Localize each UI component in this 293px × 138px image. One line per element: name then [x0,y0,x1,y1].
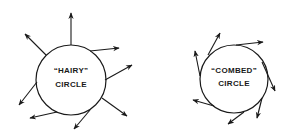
hairy-label-line1: “HAIRY” [54,66,89,75]
arrow-icon [102,98,127,116]
arrow-icon [228,112,244,124]
arrow-icon [30,112,57,118]
arrow-icon [90,48,119,51]
combed-circle-figure: “COMBED” CIRCLE [193,33,275,124]
arrow-icon [19,82,37,105]
arrow-icon [193,100,214,106]
arrow-icon [262,62,275,91]
arrow-icon [195,51,200,76]
arrow-icon [105,65,132,80]
hairy-circle-figure: “HAIRY” CIRCLE [19,13,132,129]
hairy-combed-diagram: “HAIRY” CIRCLE “COMBED” CIRCLE [0,0,293,138]
arrow-icon [25,34,46,55]
arrow-icon [236,42,263,45]
combed-label-line1: “COMBED” [211,66,257,75]
combed-label-line2: CIRCLE [218,79,250,88]
hairy-label-line2: CIRCLE [55,80,87,89]
